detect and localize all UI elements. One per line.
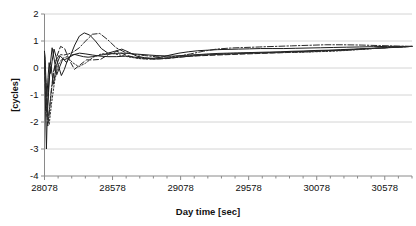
y-tick-labels: 210-1-2-3-4 [30,8,38,181]
line-chart-plot: 210-1-2-3-4 2807828578290782957830078305… [0,0,416,226]
y-tick-label: 0 [33,62,38,73]
grid-lines [45,14,413,149]
data-series-line [45,46,413,124]
x-tick-label: 28578 [99,182,125,193]
data-series-line [45,46,413,149]
data-series-line [45,46,413,126]
x-tick-label: 30578 [372,182,398,193]
x-axis-ticks [45,176,413,180]
x-tick-label: 30078 [304,182,330,193]
y-axis-title: [cycles] [6,0,24,190]
y-tick-label: -4 [30,170,38,181]
y-tick-label: -2 [30,116,38,127]
data-series-group [45,33,413,149]
y-tick-label: -3 [30,143,38,154]
x-tick-labels: 280782857829078295783007830578 [31,182,398,193]
y-tick-label: 1 [33,35,38,46]
y-tick-label: 2 [33,8,38,19]
y-axis-title-text: [cycles] [10,78,20,112]
x-axis-title: Day time [sec] [0,206,416,217]
chart-container: 210-1-2-3-4 2807828578290782957830078305… [0,0,416,226]
y-axis-ticks [41,14,45,176]
x-tick-label: 28078 [31,182,57,193]
x-tick-label: 29578 [235,182,261,193]
x-tick-label: 29078 [167,182,193,193]
y-tick-label: -1 [30,89,38,100]
